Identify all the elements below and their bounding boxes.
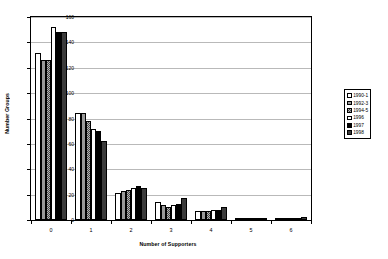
y-axis-tick-mark [27,119,30,120]
bar-cluster [71,17,111,220]
legend-item: 1997 [347,122,368,129]
y-axis-tick-mark [27,169,30,170]
x-axis-title: Number of Supporters [24,241,312,247]
legend-item-label: 1994-5 [353,108,368,113]
x-axis-tick-mark [31,221,32,224]
y-axis-tick-label: 100 [54,91,74,96]
x-axis-tick-mark [111,221,112,224]
x-axis-tick-mark [151,221,152,224]
bar-cluster [231,17,271,220]
legend-swatch-icon [347,130,352,135]
legend-swatch-icon [347,101,352,106]
y-axis-tick-mark [27,93,30,94]
bar-cluster [271,17,311,220]
legend-item: 1998 [347,129,368,136]
legend-item: 1996 [347,114,368,121]
bar [301,217,306,220]
x-axis-tick-mark [271,221,272,224]
x-axis-tick-mark [231,221,232,224]
x-axis-tick-label: 5 [241,227,261,233]
x-axis-tick-label: 0 [41,227,61,233]
x-axis-tick-label: 1 [81,227,101,233]
x-axis-title-text: Number of Supporters [139,241,196,247]
x-axis-tick-label: 3 [161,227,181,233]
y-axis-tick-mark [27,195,30,196]
legend-swatch-icon [347,116,352,121]
bar [221,207,226,220]
bar-cluster [111,17,151,220]
legend-swatch-icon [347,123,352,128]
chart-legend: 1990-11992-31994-5199619971998 [344,89,371,139]
y-axis-tick-label: 60 [54,141,74,146]
x-axis-tick-mark [191,221,192,224]
bar [181,198,186,220]
bar-cluster [151,17,191,220]
y-axis-tick-label: 80 [54,116,74,121]
legend-item: 1994-5 [347,107,368,114]
x-axis-tick-label: 2 [121,227,141,233]
x-axis-tick-mark [71,221,72,224]
x-axis-tick-label: 4 [201,227,221,233]
legend-item-label: 1997 [353,123,364,128]
y-axis-tick-mark [27,42,30,43]
legend-swatch-icon [347,108,352,113]
legend-swatch-icon [347,93,352,98]
legend-item-label: 1996 [353,115,364,120]
legend-item-label: 1992-3 [353,101,368,106]
bar [101,141,106,220]
y-axis-tick-mark [27,68,30,69]
y-axis-tick-label: 120 [54,65,74,70]
y-axis-tick-mark [27,144,30,145]
y-axis-tick-mark [27,220,30,221]
bar-chart: Number Groups 020406080100120140160 0123… [0,0,388,259]
bar-cluster [191,17,231,220]
x-axis-tick-mark [311,221,312,224]
legend-item: 1992-3 [347,99,368,106]
y-axis-tick-mark [27,17,30,18]
legend-item-label: 1990-1 [353,93,368,98]
y-axis-tick-label: 40 [54,167,74,172]
legend-item: 1990-1 [347,92,368,99]
y-axis-title: Number Groups [0,0,14,226]
y-axis-tick-label: 160 [54,15,74,20]
bar [261,218,266,220]
legend-item-label: 1998 [353,130,364,135]
y-axis-tick-label: 140 [54,40,74,45]
y-axis-tick-label: 20 [54,192,74,197]
y-axis-title-text: Number Groups [4,93,10,134]
bar [141,188,146,220]
x-axis-tick-label: 6 [281,227,301,233]
